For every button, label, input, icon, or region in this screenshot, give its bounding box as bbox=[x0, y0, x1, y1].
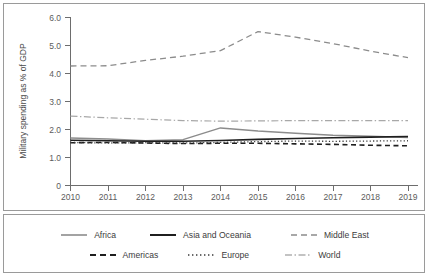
legend-label: Americas bbox=[123, 250, 159, 260]
legend-panel: AfricaAsia and OceaniaMiddle EastAmerica… bbox=[3, 214, 425, 273]
xtick-label-2012: 2012 bbox=[136, 192, 155, 202]
series-line-middle-east bbox=[71, 32, 409, 66]
legend-item-asia-and-oceania[interactable]: Asia and Oceania bbox=[150, 230, 251, 240]
legend-label: Europe bbox=[221, 250, 249, 260]
legend-row-1: AfricaAsia and OceaniaMiddle East bbox=[61, 230, 369, 240]
series-line-americas bbox=[71, 142, 409, 145]
legend-label: Africa bbox=[94, 230, 116, 240]
x-axis-ticks bbox=[71, 186, 409, 191]
y-axis-tick-labels: 6.0 5.0 4.0 3.0 2.0 1.0 0 bbox=[49, 13, 61, 191]
y-axis-ticks bbox=[65, 18, 71, 186]
xtick-label-2018: 2018 bbox=[361, 192, 380, 202]
ytick-label-3: 3.0 bbox=[49, 97, 61, 107]
legend-item-world[interactable]: World bbox=[285, 250, 340, 260]
ytick-label-2: 2.0 bbox=[49, 125, 61, 135]
legend-label: Asia and Oceania bbox=[183, 230, 251, 240]
y-axis-title: Military spending as % of GDP bbox=[18, 43, 28, 159]
legend-key-line-dashed-black bbox=[90, 250, 116, 260]
xtick-label-2011: 2011 bbox=[99, 192, 118, 202]
xtick-label-2016: 2016 bbox=[286, 192, 305, 202]
series-line-africa bbox=[71, 128, 409, 141]
series-line-world bbox=[71, 116, 409, 121]
legend-item-europe[interactable]: Europe bbox=[188, 250, 249, 260]
xtick-label-2017: 2017 bbox=[324, 192, 343, 202]
legend-item-middle-east[interactable]: Middle East bbox=[291, 230, 369, 240]
legend-key-line-dotted bbox=[188, 250, 214, 260]
xtick-label-2010: 2010 bbox=[61, 192, 80, 202]
x-axis-tick-labels: 2010201120122013201420152016201720182019 bbox=[61, 192, 418, 202]
legend-key-line-solid-gray bbox=[61, 230, 87, 240]
legend-key-line-solid-black bbox=[150, 230, 176, 240]
chart-screenshot: 6.0 5.0 4.0 3.0 2.0 1.0 0 Military spend… bbox=[0, 0, 428, 276]
legend-label: Middle East bbox=[324, 230, 369, 240]
ytick-label-6: 6.0 bbox=[49, 13, 61, 23]
ytick-label-1: 1.0 bbox=[49, 153, 61, 163]
ytick-label-4: 4.0 bbox=[49, 69, 61, 79]
legend-item-americas[interactable]: Americas bbox=[90, 250, 159, 260]
ytick-label-5: 5.0 bbox=[49, 41, 61, 51]
plot-area: 6.0 5.0 4.0 3.0 2.0 1.0 0 Military spend… bbox=[4, 4, 426, 212]
legend-key-line-dashed-gray bbox=[291, 230, 317, 240]
xtick-label-2015: 2015 bbox=[249, 192, 268, 202]
legend-key-line-dashdot-gray bbox=[285, 250, 311, 260]
legend-label: World bbox=[318, 250, 340, 260]
chart-panel: 6.0 5.0 4.0 3.0 2.0 1.0 0 Military spend… bbox=[3, 3, 425, 211]
xtick-label-2014: 2014 bbox=[211, 192, 230, 202]
chart-legend: AfricaAsia and OceaniaMiddle EastAmerica… bbox=[4, 215, 426, 274]
legend-item-africa[interactable]: Africa bbox=[61, 230, 116, 240]
legend-row-2: AmericasEuropeWorld bbox=[90, 250, 341, 260]
ytick-label-0: 0 bbox=[56, 181, 61, 191]
line-chart-svg: 6.0 5.0 4.0 3.0 2.0 1.0 0 Military spend… bbox=[4, 4, 426, 212]
xtick-label-2019: 2019 bbox=[399, 192, 418, 202]
xtick-label-2013: 2013 bbox=[174, 192, 193, 202]
data-series-group bbox=[71, 32, 409, 146]
